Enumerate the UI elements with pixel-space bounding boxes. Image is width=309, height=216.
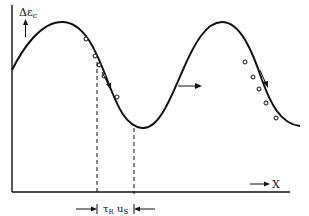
marker-points-2 [243, 60, 278, 120]
x-axis-arrow-icon [250, 182, 270, 187]
wave-curve [12, 22, 300, 128]
y-axis-label: Δεc [19, 6, 38, 20]
propagation-arrow-icon [178, 83, 202, 89]
interval-label: τR uS [103, 203, 128, 216]
particle-arrow-icon-1 [102, 72, 111, 90]
x-axis-label: X [272, 178, 280, 191]
y-axis-arrow-icon [23, 19, 28, 37]
dashed-guides [97, 62, 134, 194]
axes [12, 5, 290, 192]
wave-diagram: Δεc X [0, 0, 309, 216]
